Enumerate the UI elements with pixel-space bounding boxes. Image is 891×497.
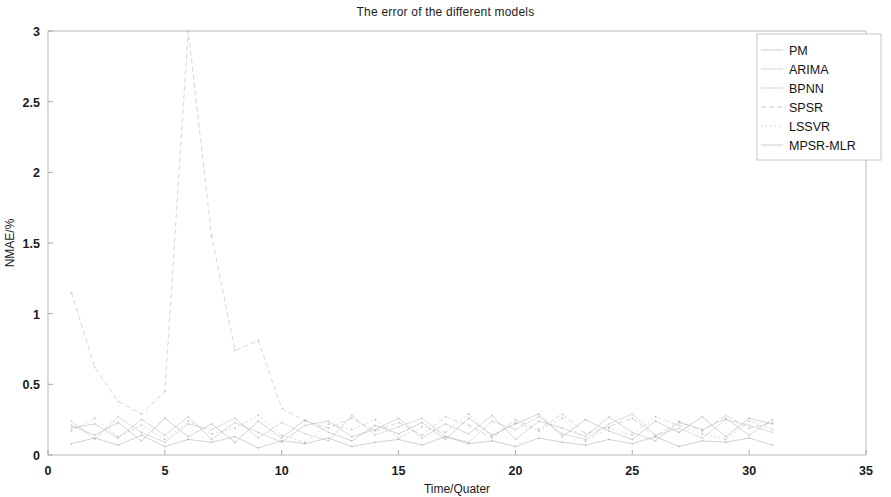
series-point — [515, 429, 517, 431]
series-point — [631, 434, 633, 436]
series-point — [702, 433, 704, 435]
series-point — [515, 422, 517, 424]
series-point — [561, 436, 563, 438]
series-point — [398, 422, 400, 424]
plot-canvas: 0510152025303500.511.522.53Time/QuaterNM… — [0, 0, 891, 497]
series-point — [328, 437, 330, 439]
series-point — [631, 439, 633, 441]
series-point — [515, 419, 517, 421]
series-point — [141, 424, 143, 426]
series-point — [538, 430, 540, 432]
series-point — [468, 433, 470, 435]
series-point — [561, 417, 563, 419]
series-point — [164, 417, 166, 419]
series-point — [70, 443, 72, 445]
series-point — [141, 434, 143, 436]
series-point — [94, 423, 96, 425]
series-point — [304, 443, 306, 445]
series-point — [234, 350, 236, 352]
legend-label-bpnn[interactable]: BPNN — [789, 82, 824, 96]
series-point — [748, 424, 750, 426]
series-point — [281, 434, 283, 436]
series-point — [164, 439, 166, 441]
y-tick-label: 0.5 — [23, 378, 40, 392]
legend-label-lssvr[interactable]: LSSVR — [789, 120, 830, 134]
series-point — [538, 416, 540, 418]
series-point — [304, 420, 306, 422]
series-point — [281, 407, 283, 409]
legend-label-arima[interactable]: ARIMA — [789, 63, 829, 77]
series-point — [117, 444, 119, 446]
series-point — [141, 431, 143, 433]
series-point — [421, 417, 423, 419]
series-point — [70, 292, 72, 294]
series-point — [631, 417, 633, 419]
series-point — [608, 416, 610, 418]
series-point — [187, 30, 189, 32]
series-point — [374, 419, 376, 421]
x-tick-label: 10 — [275, 464, 289, 478]
series-point — [421, 426, 423, 428]
series-point — [748, 434, 750, 436]
x-tick-label: 25 — [625, 464, 639, 478]
series-point — [117, 416, 119, 418]
y-axis-title: NMAE/% — [3, 218, 17, 267]
x-tick-label: 5 — [161, 464, 168, 478]
series-point — [304, 424, 306, 426]
series-point — [444, 436, 446, 438]
series-point — [538, 437, 540, 439]
x-tick-label: 35 — [859, 464, 873, 478]
series-point — [585, 419, 587, 421]
series-point — [608, 427, 610, 429]
series-point — [444, 416, 446, 418]
axis-group — [48, 31, 866, 455]
series-point — [585, 436, 587, 438]
series-point — [141, 413, 143, 415]
series-point — [772, 429, 774, 431]
series-point — [351, 415, 353, 417]
series-point — [772, 419, 774, 421]
series-point — [211, 429, 213, 431]
series-point — [141, 440, 143, 442]
series-point — [187, 436, 189, 438]
series-point — [748, 420, 750, 422]
series-point — [234, 436, 236, 438]
series-point — [257, 420, 259, 422]
series-point — [491, 415, 493, 417]
series-point — [561, 433, 563, 435]
series-point — [444, 423, 446, 425]
series-point — [351, 429, 353, 431]
y-tick-label: 3 — [33, 25, 40, 39]
series-point — [234, 422, 236, 424]
series-point — [631, 413, 633, 415]
series-point — [748, 437, 750, 439]
series-point — [538, 413, 540, 415]
series-point — [211, 441, 213, 443]
series-point — [187, 423, 189, 425]
series-point — [702, 437, 704, 439]
y-tick-label: 2.5 — [23, 96, 40, 110]
series-point — [655, 416, 657, 418]
series-point — [608, 423, 610, 425]
series-point — [94, 434, 96, 436]
series-point — [678, 420, 680, 422]
series-point — [421, 444, 423, 446]
x-tick-label: 30 — [742, 464, 756, 478]
legend-label-pm[interactable]: PM — [789, 44, 808, 58]
series-point — [725, 439, 727, 441]
x-tick-label: 0 — [45, 464, 52, 478]
legend-label-mpsr-mlr[interactable]: MPSR-MLR — [789, 139, 856, 153]
series-point — [585, 440, 587, 442]
y-tick-label: 1 — [33, 308, 40, 322]
series-point — [678, 446, 680, 448]
series-point — [70, 424, 72, 426]
series-point — [725, 415, 727, 417]
series-point — [678, 424, 680, 426]
series-point — [772, 444, 774, 446]
series-point — [328, 440, 330, 442]
series-point — [585, 444, 587, 446]
series-point — [468, 424, 470, 426]
x-tick-label: 15 — [392, 464, 406, 478]
series-point — [748, 417, 750, 419]
legend-label-spsr[interactable]: SPSR — [789, 101, 823, 115]
